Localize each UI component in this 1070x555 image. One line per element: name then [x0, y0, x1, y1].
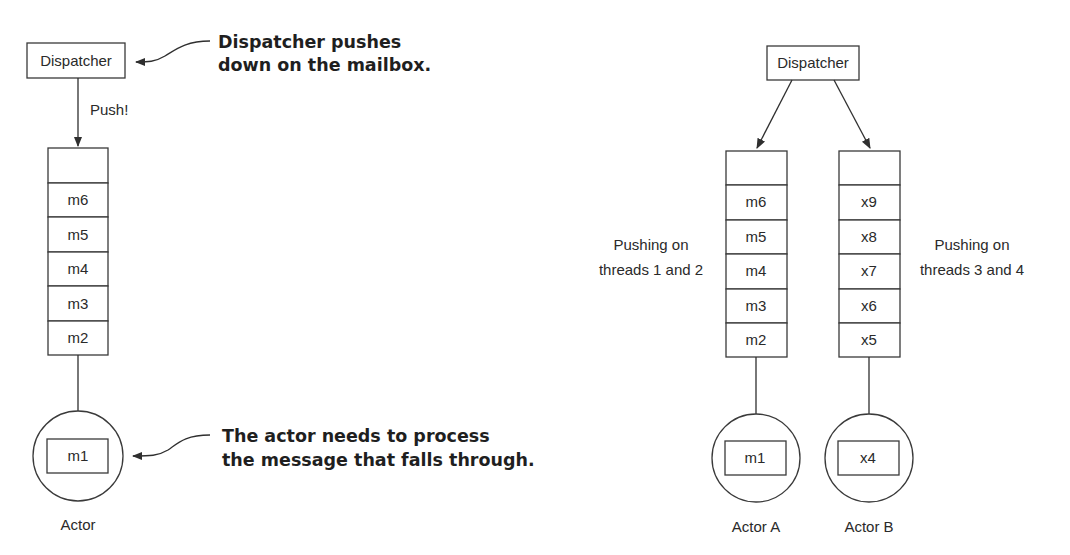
threads-a-label-line1: Pushing on — [613, 236, 688, 253]
mailbox-message: m2 — [68, 329, 89, 346]
mailbox-message: m3 — [68, 295, 89, 312]
push-label: Push! — [90, 101, 128, 118]
actor-a-label: Actor A — [732, 518, 780, 535]
mailbox-message: m6 — [746, 193, 767, 210]
mailbox-message: x8 — [861, 228, 877, 245]
annotation-top-line1: Dispatcher pushes — [218, 32, 401, 52]
annotation-bottom-line2: the message that falls through. — [222, 450, 535, 470]
dispatcher-box: Dispatcher — [27, 43, 125, 78]
mailbox-message: m6 — [68, 191, 89, 208]
mailbox-message: x7 — [861, 262, 877, 279]
dispatcher-label: Dispatcher — [40, 52, 112, 69]
actor-b-node: x4 — [825, 414, 913, 502]
mailbox-message: m2 — [746, 331, 767, 348]
annotation-arrow-bottom — [133, 435, 210, 456]
left-diagram: Dispatcher Push! m6 m5 m4 m3 m2 m1 Actor… — [27, 32, 535, 533]
actor-label: Actor — [60, 516, 95, 533]
mailbox-message: x9 — [861, 193, 877, 210]
dispatcher-label: Dispatcher — [777, 54, 849, 71]
actor-message: m1 — [68, 447, 89, 464]
actor-a-node: m1 — [712, 414, 800, 502]
mailbox-stack-b: x9 x8 x7 x6 x5 — [839, 151, 900, 357]
right-diagram: Dispatcher m6 m5 m4 m3 m2 x9 x8 — [599, 46, 1024, 535]
mailbox-message: x5 — [861, 331, 877, 348]
actor-node: m1 — [33, 411, 123, 501]
mailbox-stack-a: m6 m5 m4 m3 m2 — [726, 151, 787, 357]
mailbox-message: m3 — [746, 297, 767, 314]
diagram-canvas: Dispatcher Push! m6 m5 m4 m3 m2 m1 Actor… — [0, 0, 1070, 555]
threads-b-label-line1: Pushing on — [934, 236, 1009, 253]
dispatch-arrow-b — [834, 80, 870, 148]
actor-b-label: Actor B — [844, 518, 893, 535]
mailbox-stack: m6 m5 m4 m3 m2 — [48, 148, 108, 355]
actor-a-message: m1 — [745, 449, 766, 466]
mailbox-message: m5 — [68, 226, 89, 243]
dispatch-arrow-a — [757, 80, 792, 148]
mailbox-message: m5 — [746, 228, 767, 245]
mailbox-message: m4 — [746, 262, 767, 279]
annotation-arrow-top — [136, 41, 210, 62]
annotation-top-line2: down on the mailbox. — [218, 55, 431, 75]
mailbox-message: x6 — [861, 297, 877, 314]
annotation-bottom-line1: The actor needs to process — [222, 426, 490, 446]
threads-a-label-line2: threads 1 and 2 — [599, 261, 703, 278]
actor-b-message: x4 — [860, 449, 876, 466]
threads-b-label-line2: threads 3 and 4 — [920, 261, 1024, 278]
mailbox-message: m4 — [68, 260, 89, 277]
dispatcher-box: Dispatcher — [767, 46, 859, 80]
